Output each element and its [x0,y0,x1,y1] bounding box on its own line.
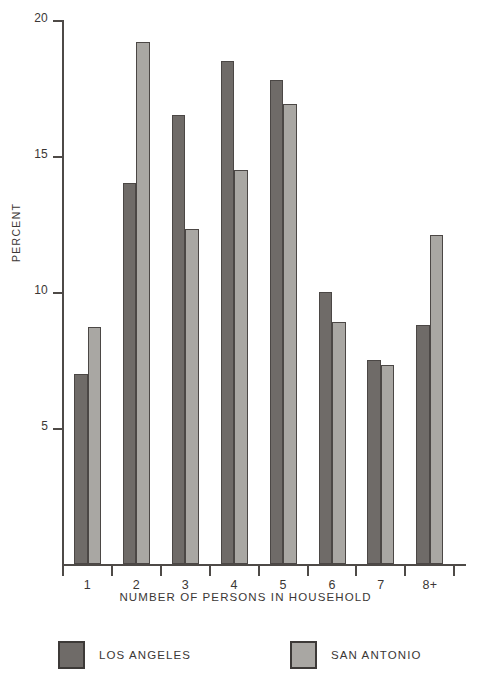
legend-swatch [290,641,317,669]
x-axis-tick [160,566,162,576]
bar [367,360,381,564]
x-axis-tick [111,566,113,576]
legend-entry[interactable]: LOS ANGELES [58,641,191,669]
x-axis-tick-label: 4 [214,578,254,592]
bar [430,235,444,564]
plot-area: 5101520 12345678+ [62,20,466,566]
x-axis-tick [62,566,64,576]
bar [74,374,88,564]
y-axis-tick-label: 10 [34,283,48,297]
bar [221,61,235,564]
x-axis-tick-label: 2 [116,578,156,592]
x-axis-title: NUMBER OF PERSONS IN HOUSEHOLD [0,591,491,603]
legend-entry[interactable]: SAN ANTONIO [290,641,422,669]
legend-label: LOS ANGELES [99,649,191,661]
x-axis-tick [209,566,211,576]
y-axis-tick: 5 [53,428,62,430]
bar [123,183,137,564]
bar [270,80,284,564]
y-axis-tick: 15 [53,156,62,158]
x-axis-tick [453,566,455,576]
x-axis-tick-label: 8+ [410,578,450,592]
bar [88,327,102,564]
x-axis-tick [355,566,357,576]
y-axis-tick-label: 20 [34,11,48,25]
x-axis-tick [404,566,406,576]
legend-swatch [58,641,85,669]
bar [381,365,395,564]
chart-legend: LOS ANGELESSAN ANTONIO [0,641,491,681]
x-axis-tick-label: 1 [68,578,108,592]
x-axis-tick-label: 5 [263,578,303,592]
grouped-bar-chart: 5101520 12345678+ PERCENT NUMBER OF PERS… [0,0,491,690]
bar [185,229,199,564]
bar [172,115,186,564]
x-axis-tick-label: 6 [312,578,352,592]
y-axis-tick: 20 [53,20,62,22]
y-axis-tick: 10 [53,292,62,294]
bar [136,42,150,564]
y-axis-tick-label: 5 [41,419,48,433]
x-axis-tick-label: 7 [361,578,401,592]
x-axis-tick [307,566,309,576]
bar [234,170,248,564]
y-axis-line [62,20,64,566]
y-axis-tick-label: 15 [34,147,48,161]
legend-label: SAN ANTONIO [331,649,422,661]
x-axis-tick-label: 3 [165,578,205,592]
bar [283,104,297,564]
x-axis-tick [258,566,260,576]
y-axis-title: PERCENT [10,203,22,262]
bar [416,325,430,564]
bar [319,292,333,564]
bar [332,322,346,564]
